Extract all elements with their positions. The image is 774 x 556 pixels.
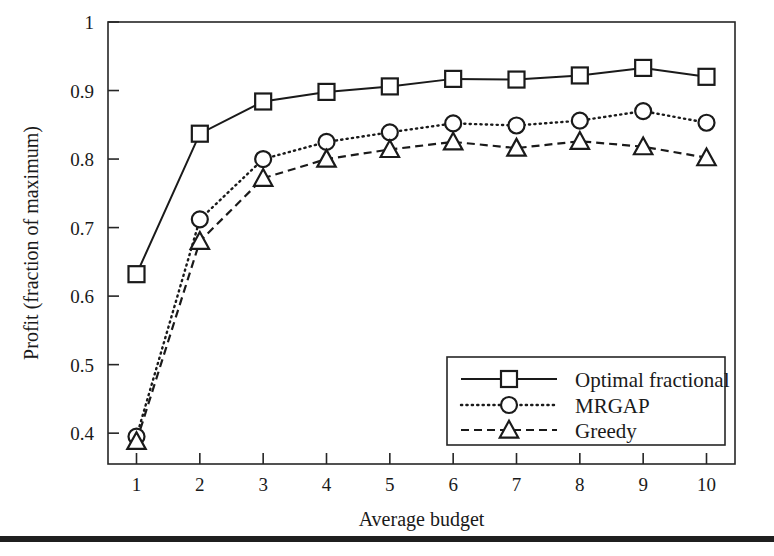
- circle-marker: [192, 211, 208, 227]
- y-tick-label: 0.5: [70, 355, 94, 376]
- legend-label: MRGAP: [575, 394, 650, 418]
- circle-marker: [445, 115, 461, 131]
- legend-square-marker: [501, 371, 517, 387]
- x-tick-label: 9: [638, 474, 648, 495]
- circle-marker: [635, 103, 651, 119]
- y-tick-label: 0.9: [70, 81, 94, 102]
- y-axis-title: Profit (fraction of maximum): [20, 126, 43, 360]
- x-tick-label: 3: [258, 474, 268, 495]
- triangle-marker: [444, 133, 462, 150]
- y-tick-label: 0.8: [70, 149, 94, 170]
- x-tick-label: 2: [195, 474, 205, 495]
- series-line-optimal-fractional: [137, 68, 707, 274]
- x-tick-label: 7: [512, 474, 522, 495]
- line-chart: 0.40.50.60.70.80.9112345678910Average bu…: [0, 0, 774, 556]
- x-tick-label: 5: [385, 474, 395, 495]
- legend-circle-marker: [501, 397, 517, 413]
- figure-container: 0.40.50.60.70.80.9112345678910Average bu…: [0, 0, 774, 556]
- square-marker: [699, 69, 715, 85]
- y-tick-label: 0.6: [70, 286, 94, 307]
- circle-marker: [382, 124, 398, 140]
- square-marker: [445, 71, 461, 87]
- circle-marker: [699, 115, 715, 131]
- square-marker: [509, 72, 525, 88]
- square-marker: [635, 60, 651, 76]
- triangle-marker: [571, 132, 589, 149]
- square-marker: [382, 78, 398, 94]
- x-tick-label: 1: [132, 474, 142, 495]
- square-marker: [255, 93, 271, 109]
- x-tick-label: 8: [575, 474, 585, 495]
- x-tick-label: 6: [448, 474, 458, 495]
- x-tick-label: 10: [697, 474, 716, 495]
- square-marker: [129, 266, 145, 282]
- circle-marker: [572, 113, 588, 129]
- x-axis-title: Average budget: [359, 508, 485, 531]
- circle-marker: [255, 151, 271, 167]
- legend-label: Optimal fractional: [575, 368, 730, 392]
- y-tick-label: 1: [85, 12, 95, 33]
- y-tick-label: 0.7: [70, 218, 94, 239]
- square-marker: [572, 67, 588, 83]
- y-tick-label: 0.4: [70, 423, 94, 444]
- x-tick-label: 4: [322, 474, 332, 495]
- page-bottom-rule: [0, 536, 774, 542]
- circle-marker: [509, 117, 525, 133]
- square-marker: [192, 126, 208, 142]
- square-marker: [319, 84, 335, 100]
- circle-marker: [319, 134, 335, 150]
- legend-label: Greedy: [575, 419, 637, 443]
